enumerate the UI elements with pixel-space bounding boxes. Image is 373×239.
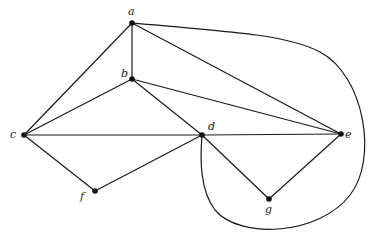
node-label-f: f — [79, 190, 86, 203]
edge-d-g — [202, 135, 269, 199]
edge-c-f — [24, 135, 95, 191]
edge-b-e — [132, 79, 341, 134]
graph-diagram: abcdefg — [0, 0, 373, 239]
node-f — [92, 188, 98, 194]
edge-b-d — [132, 79, 202, 135]
node-label-g: g — [265, 203, 272, 216]
node-g — [266, 196, 272, 202]
node-e — [338, 131, 344, 137]
edges — [24, 23, 365, 229]
node-label-c: c — [10, 128, 16, 141]
edge-e-g — [269, 134, 341, 199]
edge-a-c — [24, 23, 132, 135]
node-labels: abcdefg — [10, 5, 352, 216]
edge-a-e — [132, 23, 341, 134]
node-b — [129, 76, 135, 82]
node-a — [129, 20, 135, 26]
node-label-d: d — [208, 120, 215, 133]
node-c — [21, 132, 27, 138]
edge-b-c — [24, 79, 132, 135]
node-label-e: e — [345, 128, 352, 141]
edge-d-f — [95, 135, 202, 191]
node-label-a: a — [128, 5, 135, 18]
node-d — [199, 132, 205, 138]
edge-d-e — [202, 134, 341, 135]
curved-edge-a-d — [132, 23, 365, 229]
node-label-b: b — [121, 67, 128, 80]
